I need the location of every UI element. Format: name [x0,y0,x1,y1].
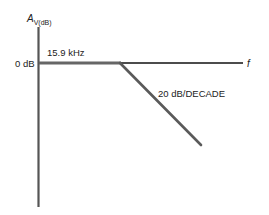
y-axis-label: AV(dB) [26,13,52,27]
x-axis-label: f [247,58,251,69]
bode-plot: AV(dB) 0 dB 15.9 kHz f 20 dB/DECADE [0,0,269,215]
y-axis-label-sub: V(dB) [34,19,52,27]
rolloff-line [120,63,201,145]
rolloff-label: 20 dB/DECADE [158,88,225,99]
zero-db-label: 0 dB [15,58,35,69]
cutoff-frequency-label: 15.9 kHz [47,47,85,58]
